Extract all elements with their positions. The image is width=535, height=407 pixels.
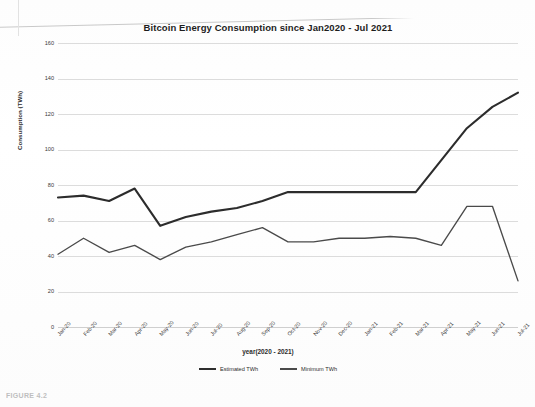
y-axis-tick-label: 40 xyxy=(24,253,54,259)
figure-caption: FIGURE 4.2 xyxy=(6,392,47,399)
chart-title: Bitcoin Energy Consumption since Jan2020… xyxy=(18,22,518,33)
legend-label-minimum: Minimum TWh xyxy=(301,366,337,372)
y-axis-tick-label: 20 xyxy=(24,288,54,294)
y-axis-tick-label: 100 xyxy=(24,146,54,152)
y-axis-tick-label: 120 xyxy=(24,111,54,117)
x-axis-title: year(2020 - 2021) xyxy=(18,348,518,355)
legend-swatch-estimated-icon xyxy=(199,368,216,370)
series-lines xyxy=(58,43,518,327)
chart-legend: Estimated TWh Minimum TWh xyxy=(18,366,518,372)
y-axis-tick-label: 80 xyxy=(24,182,54,188)
y-axis-tick-label: 60 xyxy=(24,217,54,223)
legend-swatch-minimum-icon xyxy=(280,368,297,369)
y-axis-title: Consumption (TWh) xyxy=(16,91,23,150)
y-axis-tick-label: 0 xyxy=(24,324,54,330)
line-estimated-twh xyxy=(58,93,518,226)
y-axis-tick-label: 160 xyxy=(24,40,54,46)
line-chart: Bitcoin Energy Consumption since Jan2020… xyxy=(18,10,518,370)
legend-item-estimated: Estimated TWh xyxy=(199,366,258,372)
legend-item-minimum: Minimum TWh xyxy=(280,366,337,372)
legend-label-estimated: Estimated TWh xyxy=(220,366,258,372)
plot-area: 020406080100120140160 Jan-20Feb-20Mar-20… xyxy=(58,43,518,327)
y-axis-tick-label: 140 xyxy=(24,75,54,81)
line-minimum-twh xyxy=(58,206,518,281)
